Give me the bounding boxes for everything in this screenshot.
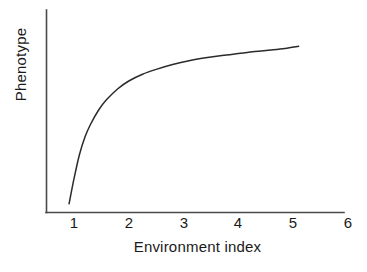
x-axis-title: Environment index [0, 238, 367, 255]
y-axis-title: Phenotype [12, 15, 29, 115]
x-tick-label-4: 4 [226, 214, 250, 232]
x-tick-label-2: 2 [117, 214, 141, 232]
chart-figure: 1 2 3 4 5 6 Environment index Phenotype [0, 0, 367, 272]
x-axis-title-text: Environment index [106, 238, 262, 255]
x-tick-label-3: 3 [172, 214, 196, 232]
x-tick-label-5: 5 [281, 214, 305, 232]
x-tick-label-6: 6 [336, 214, 360, 232]
x-tick-label-1: 1 [62, 214, 86, 232]
phenotype-response-curve [69, 46, 299, 204]
